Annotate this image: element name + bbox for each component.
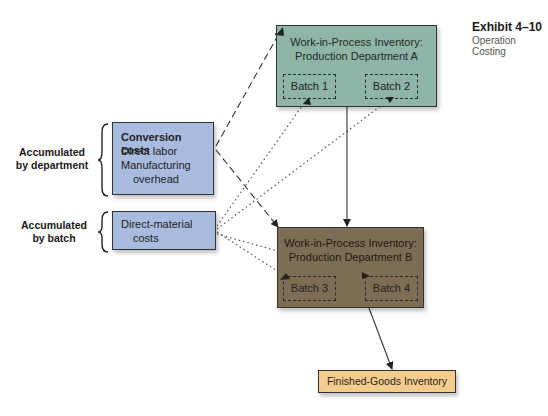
wip-department-a-box: Work-in-Process Inventory: Production De… <box>276 25 437 107</box>
direct-material-costs-box: Direct-material costs <box>112 211 216 250</box>
direct-labor-text: Direct labor <box>121 145 177 158</box>
dept-a-title-line2: Production Department A <box>277 49 436 63</box>
dept-b-title-line1: Work-in-Process Inventory: <box>278 236 423 250</box>
dept-b-title: Work-in-Process Inventory: Production De… <box>278 236 423 264</box>
wip-department-b-box: Work-in-Process Inventory: Production De… <box>277 227 424 308</box>
batch-2: Batch 2 <box>365 74 418 99</box>
batch-1: Batch 1 <box>283 74 336 99</box>
direct-material-text: Direct-material <box>121 218 193 231</box>
manufacturing-text: Manufacturing <box>121 159 191 172</box>
dept-a-title-line1: Work-in-Process Inventory: <box>277 35 436 49</box>
arrow-material-to-batch-1 <box>217 99 307 226</box>
batch-4: Batch 4 <box>365 276 418 301</box>
arrow-material-to-batch-2 <box>217 99 390 229</box>
arrow-material-to-batch-3 <box>217 232 285 276</box>
dept-a-title: Work-in-Process Inventory: Production De… <box>277 35 436 63</box>
finished-goods-inventory-box: Finished-Goods Inventory <box>318 370 456 393</box>
arrow-conversion-to-dept-b <box>216 150 278 227</box>
dept-b-title-line2: Production Department B <box>278 250 423 264</box>
batch-3: Batch 3 <box>283 276 336 301</box>
flow-arrows <box>0 0 548 416</box>
costs-text: costs <box>133 232 159 245</box>
arrow-conversion-to-dept-a <box>216 30 281 146</box>
overhead-text: overhead <box>133 173 179 186</box>
arrow-dept-b-to-finished-goods <box>369 308 392 369</box>
conversion-costs-box: Conversion costs Direct labor Manufactur… <box>112 122 214 195</box>
